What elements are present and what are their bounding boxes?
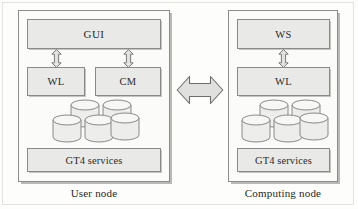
component-box-gt4-services-computing: GT4 services (237, 148, 330, 172)
diagram-canvas: GUI WL CM (0, 0, 358, 209)
component-box-gui: GUI (27, 19, 161, 49)
database-cylinder-cluster-user (49, 99, 141, 147)
caption-user-node: User node (18, 187, 170, 199)
connector-gui-cm-double-arrow (123, 49, 134, 68)
connector-ws-wl-double-arrow (278, 49, 289, 68)
component-box-wl-user: WL (27, 67, 85, 96)
node-computing-frame: WS WL GT4 services (228, 10, 338, 182)
caption-computing-node: Computing node (218, 187, 348, 199)
component-box-ws: WS (237, 19, 330, 49)
component-box-cm: CM (95, 67, 161, 96)
database-cylinder-cluster-computing (238, 99, 330, 147)
node-user-frame: GUI WL CM (18, 10, 170, 182)
connector-nodes-double-arrow (176, 68, 224, 112)
component-box-wl-computing: WL (237, 67, 330, 96)
connector-gui-wl-double-arrow (51, 49, 62, 68)
component-box-gt4-services-user: GT4 services (27, 148, 161, 172)
